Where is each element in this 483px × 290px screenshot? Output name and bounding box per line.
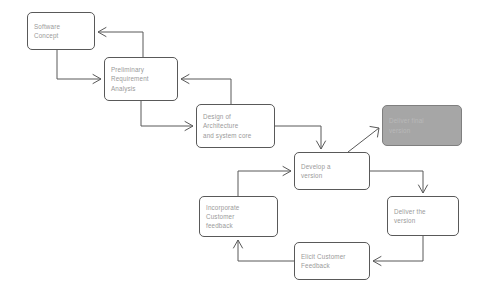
node-label-line: Develop a — [301, 162, 331, 171]
node-label-line: Elicit Customer — [301, 252, 346, 261]
node-develop-a-version[interactable]: Develop aversion — [294, 152, 370, 190]
node-label-line: version — [389, 126, 410, 135]
node-label-line: version — [301, 171, 322, 180]
node-label-line: and system core — [203, 131, 251, 140]
edge-incorporate-to-develop — [238, 167, 291, 197]
node-label-line: Design of — [203, 112, 231, 121]
edge-develop-to-deliver-the-version — [370, 171, 428, 193]
node-label-line: Requirement — [111, 74, 149, 83]
edge-deliver-to-elicit-feedback — [373, 236, 423, 266]
node-label-line: Incorporate — [206, 203, 240, 212]
edge-preliminary-to-design — [141, 101, 193, 131]
node-label-line: Architecture — [203, 121, 238, 130]
edge-design-feedback-to-preliminary — [181, 75, 231, 105]
node-elicit-customer-feedback[interactable]: Elicit CustomerFeedback — [294, 242, 370, 280]
node-preliminary-requirement-analysis[interactable]: PreliminaryRequirementAnalysis — [104, 57, 178, 101]
node-deliver-final-version[interactable]: Deliver finalversion — [382, 105, 462, 146]
node-label-line: Deliver final — [389, 116, 424, 125]
edge-preliminary-feedback-to-software-concept — [98, 28, 143, 58]
node-label-line: Customer — [206, 212, 235, 221]
node-label-line: Deliver the — [394, 207, 426, 216]
node-deliver-the-version[interactable]: Deliver theversion — [387, 196, 459, 236]
node-design-of-architecture-and-system-core[interactable]: Design ofArchitectureand system core — [196, 104, 275, 148]
flowchart-canvas: SoftwareConceptPreliminaryRequirementAna… — [0, 0, 483, 290]
node-label-line: Analysis — [111, 84, 136, 93]
node-label-line: Software — [34, 22, 60, 31]
edge-design-to-develop — [275, 126, 326, 149]
edge-software-concept-to-preliminary — [57, 50, 101, 84]
edge-elicit-to-incorporate-feedback — [234, 240, 295, 261]
node-label-line: Preliminary — [111, 65, 144, 74]
node-incorporate-customer-feedback[interactable]: IncorporateCustomerfeedback — [199, 196, 278, 237]
node-software-concept[interactable]: SoftwareConcept — [27, 12, 95, 50]
edge-develop-to-deliver-final — [348, 127, 379, 153]
node-label-line: version — [394, 216, 415, 225]
node-label-line: feedback — [206, 221, 233, 230]
node-label-line: Concept — [34, 31, 59, 40]
node-label-line: Feedback — [301, 261, 330, 270]
